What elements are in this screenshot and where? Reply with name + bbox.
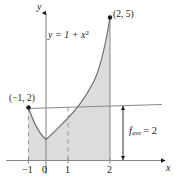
point-dot-neg1-2 — [26, 105, 30, 109]
x-tick-label-neg1: −1 — [22, 165, 33, 175]
y-axis-label: y — [37, 2, 41, 12]
curve-equation-exponent: 2 — [85, 29, 89, 37]
x-tick-label-1: 1 — [65, 165, 70, 175]
fave-label: fave= 2 — [129, 126, 157, 137]
fave-subscript: ave — [132, 129, 141, 136]
curve-equation-lead: y = 1 + x — [48, 29, 85, 40]
point-dot-2-5 — [108, 15, 112, 19]
average-value-figure: y x (2, 5) (−1, 2) y = 1 + x2 fave= 2 −1… — [0, 0, 178, 183]
plot-canvas — [0, 0, 178, 183]
point-label-2-5: (2, 5) — [113, 10, 134, 20]
fave-value: = 2 — [143, 125, 157, 136]
x-axis-label: x — [166, 163, 170, 173]
point-label-neg1-2: (−1, 2) — [9, 94, 35, 104]
x-tick-label-2: 2 — [107, 165, 112, 175]
x-tick-label-0: 0 — [42, 165, 47, 175]
curve-equation-label: y = 1 + x2 — [48, 30, 89, 40]
